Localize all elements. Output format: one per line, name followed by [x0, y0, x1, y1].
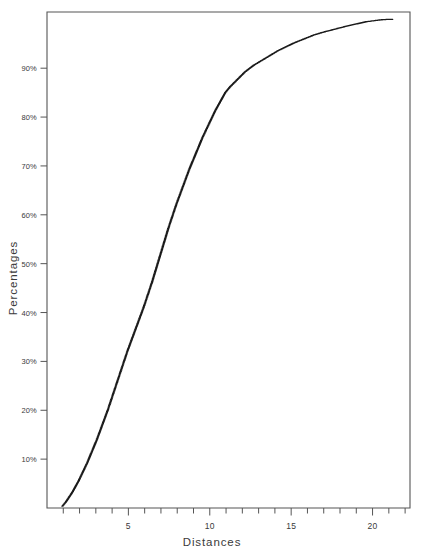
data-series-points	[62, 19, 393, 506]
y-axis-ticks	[41, 68, 48, 459]
svg-text:90%: 90%	[21, 64, 37, 73]
y-axis-tick-labels: 10%20%30%40%50%60%70%80%90%	[21, 64, 37, 464]
x-axis-tick-labels: 5101520	[126, 521, 378, 531]
svg-text:15: 15	[286, 521, 296, 531]
svg-text:70%: 70%	[21, 162, 37, 171]
plot-frame	[47, 12, 410, 508]
svg-text:20%: 20%	[21, 406, 37, 415]
svg-text:10: 10	[205, 521, 215, 531]
svg-text:20: 20	[368, 521, 378, 531]
svg-text:40%: 40%	[21, 309, 37, 318]
svg-text:10%: 10%	[21, 455, 37, 464]
x-axis-ticks	[63, 508, 405, 516]
y-axis-title: Percentages	[7, 218, 19, 338]
svg-text:50%: 50%	[21, 260, 37, 269]
svg-text:30%: 30%	[21, 357, 37, 366]
svg-text:60%: 60%	[21, 211, 37, 220]
svg-text:5: 5	[126, 521, 131, 531]
chart-figure: 5101520 10%20%30%40%50%60%70%80%90% Dist…	[0, 0, 424, 558]
svg-text:80%: 80%	[21, 113, 37, 122]
cdf-plot: 5101520 10%20%30%40%50%60%70%80%90%	[0, 0, 424, 558]
x-axis-title: Distances	[0, 536, 424, 548]
